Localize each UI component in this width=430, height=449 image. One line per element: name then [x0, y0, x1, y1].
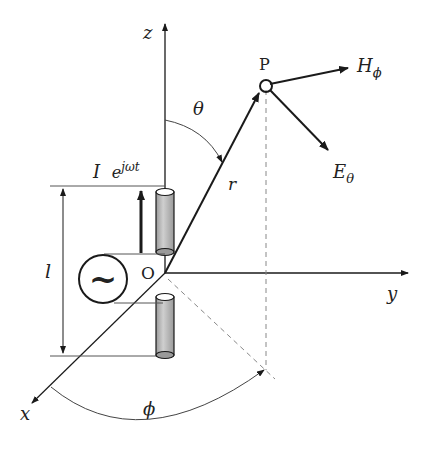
e-theta-vector — [270, 90, 328, 150]
r-vector — [165, 93, 259, 273]
projection-ground — [168, 279, 275, 379]
origin-label: O — [141, 263, 155, 283]
e-theta-label: Eθ — [332, 161, 354, 186]
x-axis-label: x — [20, 403, 30, 424]
current-base: I — [92, 161, 101, 182]
h-phi-label: Hϕ — [356, 55, 382, 80]
theta-arc — [165, 120, 222, 162]
e-theta-sub: θ — [346, 171, 354, 186]
dipole-antenna-diagram: z y x ϕ θ r P Hϕ Eθ l I ejωt — [0, 0, 430, 449]
h-phi-sub: ϕ — [373, 65, 382, 80]
h-phi-vector — [270, 68, 348, 84]
phi-label: ϕ — [143, 398, 155, 419]
phi-arc — [51, 370, 264, 420]
r-label: r — [228, 174, 237, 194]
theta-label: θ — [193, 98, 204, 119]
upper-dipole-arm — [156, 189, 174, 256]
e-theta-base: E — [332, 161, 346, 182]
current-sup: jωt — [118, 160, 140, 174]
z-axis-label: z — [142, 22, 153, 43]
current-label: I ejωt — [92, 160, 140, 182]
y-axis-label: y — [386, 283, 398, 304]
point-p-label: P — [259, 55, 270, 74]
h-phi-base: H — [356, 55, 373, 76]
ac-source-symbol: ~ — [89, 259, 118, 299]
current-exp: e — [112, 163, 121, 182]
length-label: l — [45, 260, 51, 282]
